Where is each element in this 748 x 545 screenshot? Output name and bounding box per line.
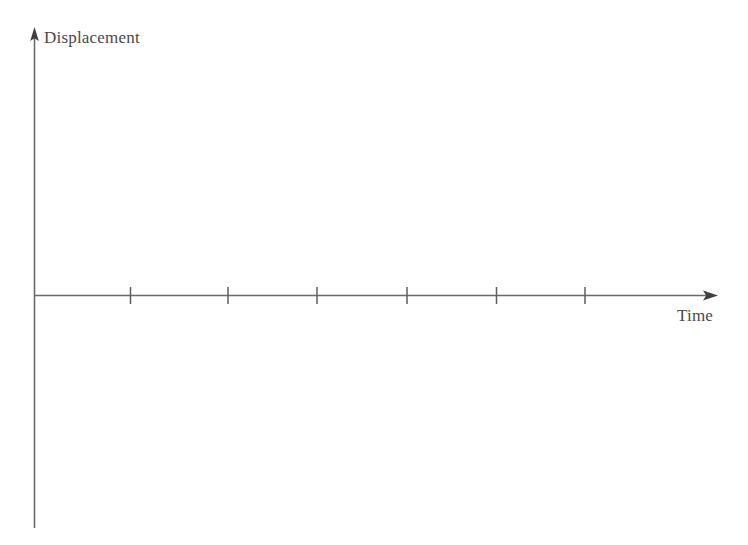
x-axis-label: Time (677, 306, 713, 325)
axes-drawing (0, 0, 748, 545)
figure-canvas: Displacement Time (0, 0, 748, 545)
y-axis-label: Displacement (44, 28, 140, 47)
